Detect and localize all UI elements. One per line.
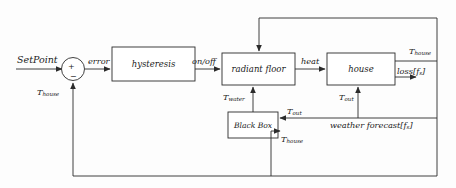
signal-label-t-house-black-box: Thouse	[281, 135, 303, 145]
t-out-black-box-subscript: out	[292, 110, 301, 116]
signal-label-error: error	[88, 57, 110, 65]
t-house-feedback-subscript: house	[42, 91, 59, 97]
loss-bracket-close: ]	[422, 66, 425, 76]
signal-label-on-off: on/off	[192, 57, 216, 65]
block-label-black-box: Black Box	[228, 112, 278, 138]
block-diagram-canvas: hysteresis radiant floor house Black Box…	[0, 0, 456, 188]
signal-label-t-house-feedback: Thouse	[37, 88, 59, 98]
t-house-output-subscript: house	[414, 50, 431, 56]
signal-label-t-house-output: Thouse	[409, 47, 431, 57]
signal-label-t-water: Twater	[223, 93, 245, 103]
signal-label-t-out-house: Tout	[339, 93, 354, 103]
t-water-subscript: water	[228, 96, 244, 102]
loss-symbol: loss[f	[397, 66, 419, 76]
signal-label-t-out-black-box: Tout	[287, 107, 302, 117]
signal-label-weather-forecast: weather forecast[fs]	[330, 121, 413, 131]
signal-label-setpoint: SetPoint	[17, 55, 58, 65]
t-house-black-box-subscript: house	[286, 138, 303, 144]
weather-forecast-bracket-close: ]	[409, 120, 412, 130]
block-label-house: house	[327, 53, 395, 85]
t-out-house-subscript: out	[344, 96, 353, 102]
block-label-radiant-floor: radiant floor	[222, 53, 295, 85]
summing-junction-plus: +	[68, 63, 75, 71]
block-label-hysteresis: hysteresis	[112, 47, 195, 81]
signal-label-heat: heat	[301, 57, 319, 65]
weather-forecast-text: weather forecast[f	[330, 120, 407, 130]
signal-label-loss: loss[fs]	[397, 67, 425, 77]
summing-junction-minus: −	[70, 73, 77, 81]
